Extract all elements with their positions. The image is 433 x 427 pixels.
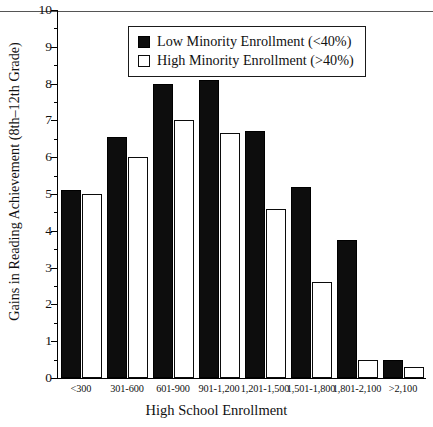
x-axis-title: High School Enrollment <box>0 402 433 419</box>
x-tick-label: <300 <box>71 384 92 394</box>
y-tick-mark <box>54 323 58 324</box>
y-tick-mark <box>54 212 58 213</box>
bar-high-minority <box>174 120 194 378</box>
bar-high-minority <box>128 157 148 378</box>
bar-low-minority <box>199 80 219 378</box>
y-tick-label: 0 <box>45 371 52 385</box>
bar-group <box>383 10 424 378</box>
x-tick-label: 1,201-1,500 <box>241 384 290 394</box>
legend-label: Low Minority Enrollment (<40%) <box>157 34 351 48</box>
y-tick-mark <box>54 286 58 287</box>
y-tick-label: 8 <box>45 77 52 91</box>
bar-low-minority <box>337 240 357 378</box>
y-tick-label: 2 <box>45 298 52 312</box>
bar-low-minority <box>153 84 173 378</box>
bar-low-minority <box>107 137 127 378</box>
y-tick-label: 5 <box>45 187 52 201</box>
bar-high-minority <box>358 360 378 378</box>
figure-container: Gains in Reading Achievement (8th–12th G… <box>0 0 433 427</box>
bar-low-minority <box>61 190 81 378</box>
y-tick-label: 4 <box>45 224 52 238</box>
x-tick-label: >2,100 <box>389 384 417 394</box>
y-tick-mark <box>54 65 58 66</box>
y-tick-mark <box>54 102 58 103</box>
bar-high-minority <box>82 194 102 378</box>
y-tick-label: 7 <box>45 114 52 128</box>
y-tick-mark <box>54 249 58 250</box>
legend-item-high-minority: High Minority Enrollment (>40%) <box>138 51 354 70</box>
bar-group <box>61 10 102 378</box>
y-tick-mark <box>54 28 58 29</box>
bar-high-minority <box>266 209 286 378</box>
y-tick-label: 3 <box>45 261 52 275</box>
y-tick-label: 9 <box>45 40 52 54</box>
bar-low-minority <box>383 360 403 378</box>
x-tick-label: 301-600 <box>110 384 144 394</box>
x-tick-label: 1,801-2,100 <box>333 384 382 394</box>
x-tick-label: 601-900 <box>156 384 190 394</box>
x-tick-label: 901-1,200 <box>198 384 239 394</box>
bar-high-minority <box>312 282 332 378</box>
y-tick-mark <box>51 341 58 342</box>
y-tick-label: 1 <box>45 334 52 348</box>
y-tick-mark <box>54 139 58 140</box>
y-tick-mark <box>51 304 58 305</box>
chart-legend: Low Minority Enrollment (<40%) High Mino… <box>128 26 366 77</box>
legend-item-low-minority: Low Minority Enrollment (<40%) <box>138 32 354 51</box>
y-tick-mark <box>54 176 58 177</box>
bar-high-minority <box>220 133 240 378</box>
y-axis-title: Gains in Reading Achievement (8th–12th G… <box>6 2 23 362</box>
legend-swatch-outlined-icon <box>138 55 150 67</box>
bar-low-minority <box>245 131 265 378</box>
y-tick-mark <box>54 360 58 361</box>
x-tick-label: 1,501-1,800 <box>287 384 336 394</box>
y-tick-label: 10 <box>39 3 53 17</box>
x-axis-line <box>57 378 426 379</box>
legend-label: High Minority Enrollment (>40%) <box>157 53 354 67</box>
bar-low-minority <box>291 187 311 378</box>
y-tick-label: 6 <box>45 150 52 164</box>
bar-high-minority <box>404 367 424 378</box>
legend-swatch-filled-icon <box>138 36 150 48</box>
